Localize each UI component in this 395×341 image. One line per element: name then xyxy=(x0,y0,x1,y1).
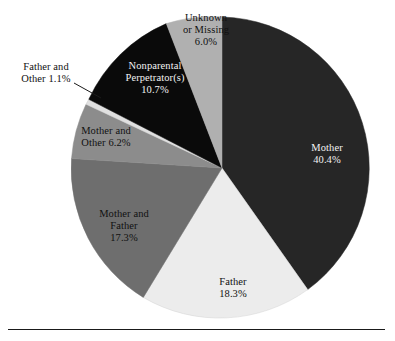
pie-chart-svg xyxy=(0,0,395,341)
figure-bottom-rule xyxy=(8,329,385,330)
pie-chart-figure: Mother 40.4% Father 18.3% Mother and Fat… xyxy=(0,0,395,341)
